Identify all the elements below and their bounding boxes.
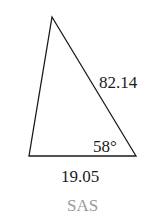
triangle-diagram: 82.14 58° 19.05 SAS: [0, 0, 162, 216]
side-label-base: 19.05: [61, 167, 99, 186]
angle-label: 58°: [93, 137, 117, 156]
caption-label: SAS: [67, 196, 98, 215]
side-label-right: 82.14: [99, 73, 138, 92]
